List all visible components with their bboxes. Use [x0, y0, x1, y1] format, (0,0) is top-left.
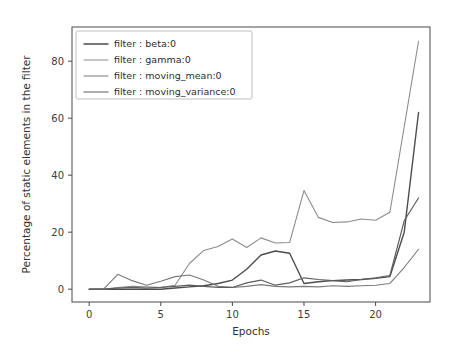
y-tick-label: 20: [51, 227, 64, 238]
legend-label-0: filter : beta:0: [114, 38, 176, 49]
legend-label-3: filter : moving_variance:0: [114, 86, 236, 97]
y-tick-label: 40: [51, 170, 64, 181]
series-line-0: [89, 112, 418, 289]
x-tick-label: 5: [158, 309, 164, 320]
y-axis-title: Percentage of static elements in the fil…: [20, 55, 32, 274]
y-tick-label: 0: [58, 284, 64, 295]
x-tick-label: 20: [369, 309, 382, 320]
legend-label-1: filter : gamma:0: [114, 54, 191, 65]
legend-label-2: filter : moving_mean:0: [114, 70, 222, 81]
series-line-2: [89, 249, 418, 289]
y-tick-label: 60: [51, 113, 64, 124]
x-tick-label: 15: [298, 309, 311, 320]
x-axis-title: Epochs: [232, 325, 270, 337]
x-tick-label: 0: [86, 309, 92, 320]
series-line-3: [89, 198, 418, 289]
chart-figure: 05101520020406080EpochsPercentage of sta…: [0, 0, 456, 356]
y-tick-label: 80: [51, 56, 64, 67]
x-tick-label: 10: [226, 309, 239, 320]
line-chart: 05101520020406080EpochsPercentage of sta…: [0, 0, 456, 356]
